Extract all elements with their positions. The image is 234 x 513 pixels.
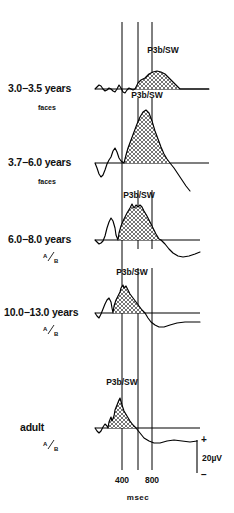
row-label-3-7-6-0-years: 3.7−6.0 years faces: [8, 156, 71, 185]
component-label-trace-4: P3b/SW: [116, 267, 149, 277]
condition-denominator-trace-5: B: [54, 446, 59, 452]
age-label-trace-3: 6.0−8.0 years: [8, 233, 71, 245]
condition-numerator-trace-4: A: [43, 326, 48, 332]
row-label-adult: adult A B: [20, 421, 59, 452]
row-label-10-0-13-0-years: 10.0−13.0 years A B: [4, 306, 79, 337]
waveform-trace-4: [95, 285, 200, 327]
erp-waveform-figure: P3b/SW P3b/SW P3b/SW P3b/SW P3b/SW 3.0−3…: [0, 0, 234, 513]
x-axis-title: msec: [127, 493, 150, 502]
condition-label-trace-2: faces: [38, 178, 56, 185]
component-label-trace-3: P3b/SW: [123, 190, 156, 200]
x-axis-labels: 400 800 msec: [115, 475, 159, 502]
scale-bar-plus-sign: +: [201, 434, 207, 445]
component-label-trace-1: P3b/SW: [147, 45, 180, 55]
trace-10-0-13-0-years: P3b/SW: [95, 267, 200, 327]
amplitude-scale-bar: + 20µV −: [197, 434, 222, 480]
trace-6-0-8-0-years: P3b/SW: [95, 190, 200, 257]
x-tick-label-400: 400: [115, 475, 129, 485]
condition-fraction-trace-5: A B: [43, 440, 59, 452]
age-label-trace-4: 10.0−13.0 years: [4, 306, 79, 318]
age-label-trace-2: 3.7−6.0 years: [8, 156, 71, 168]
x-tick-label-800: 800: [145, 475, 159, 485]
condition-fraction-trace-3: A B: [43, 252, 59, 264]
condition-numerator-trace-5: A: [43, 441, 48, 447]
age-label-trace-5: adult: [20, 421, 45, 433]
component-label-trace-2: P3b/SW: [131, 90, 164, 100]
row-label-6-0-8-0-years: 6.0−8.0 years A B: [8, 233, 71, 264]
age-label-trace-1: 3.0−3.5 years: [8, 82, 71, 94]
scale-bar-minus-sign: −: [201, 469, 207, 480]
trace-adult: P3b/SW: [95, 377, 200, 443]
shaded-area-trace-2: [124, 110, 170, 163]
condition-denominator-trace-3: B: [54, 258, 59, 264]
condition-denominator-trace-4: B: [54, 331, 59, 337]
figure-canvas: P3b/SW P3b/SW P3b/SW P3b/SW P3b/SW 3.0−3…: [0, 0, 234, 513]
shaded-area-trace-4: [113, 285, 145, 313]
component-label-trace-5: P3b/SW: [106, 377, 139, 387]
condition-numerator-trace-3: A: [43, 253, 48, 259]
scale-bar-amplitude-label: 20µV: [202, 453, 222, 463]
row-label-3-0-3-5-years: 3.0−3.5 years faces: [8, 82, 71, 111]
condition-fraction-trace-4: A B: [43, 325, 59, 337]
shaded-area-trace-3: [118, 204, 161, 240]
condition-label-trace-1: faces: [38, 104, 56, 111]
